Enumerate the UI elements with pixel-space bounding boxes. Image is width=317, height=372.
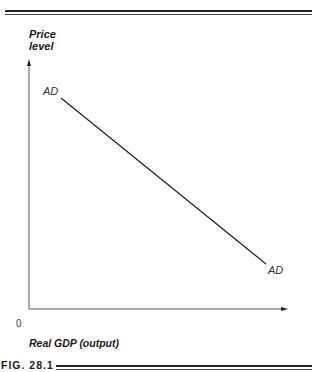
origin-label: 0 bbox=[16, 318, 22, 329]
y-axis-arrow-icon bbox=[27, 59, 31, 66]
ad-label-end: AD bbox=[268, 264, 283, 276]
x-axis-arrow-icon bbox=[281, 307, 288, 311]
ad-curve bbox=[61, 98, 266, 264]
x-axis-label: Real GDP (output) bbox=[29, 337, 119, 349]
figure-caption: FIG. 28.1 bbox=[1, 359, 54, 371]
ad-diagram bbox=[0, 0, 317, 372]
bottom-rule-thin bbox=[56, 369, 312, 370]
ad-label-start: AD bbox=[43, 85, 58, 97]
bottom-rule-thick bbox=[56, 365, 312, 367]
